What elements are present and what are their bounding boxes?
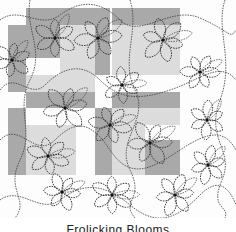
flower-motif <box>156 172 199 217</box>
flower-motif <box>33 12 77 57</box>
flower-motif <box>25 137 76 175</box>
flower-motif <box>90 176 140 214</box>
flower-motif <box>43 172 86 213</box>
flower-motif <box>189 97 225 140</box>
flower-motif <box>0 38 31 77</box>
stitched-flower-motifs <box>0 0 236 218</box>
flower-motif <box>103 66 148 104</box>
flower-motif <box>42 85 90 130</box>
flower-motif <box>73 15 124 60</box>
flower-motif <box>180 54 224 90</box>
quilt-pattern-image <box>0 0 236 218</box>
flower-motif <box>87 106 137 144</box>
pattern-caption: Frolicking Blooms <box>0 223 236 232</box>
flower-motif <box>142 17 194 63</box>
flower-motif <box>127 120 177 167</box>
